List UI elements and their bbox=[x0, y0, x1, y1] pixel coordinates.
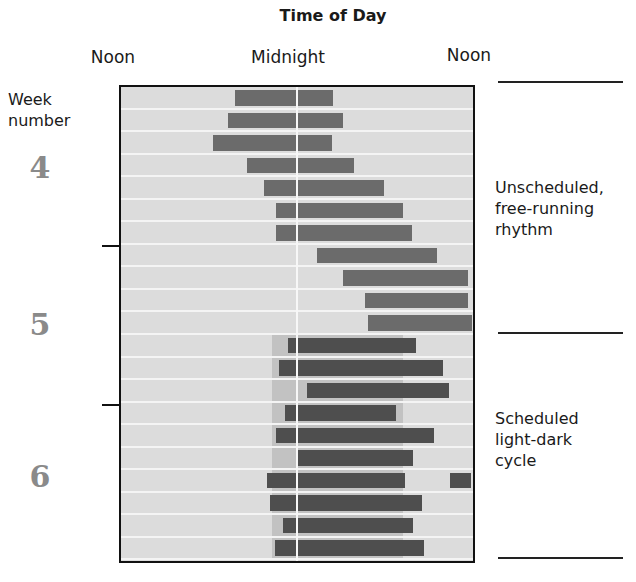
x-tick-noon-left: Noon bbox=[91, 47, 135, 67]
activity-bar bbox=[235, 90, 333, 106]
activity-bar bbox=[368, 315, 472, 331]
activity-bar bbox=[264, 180, 384, 196]
week-boundary-tick bbox=[102, 404, 119, 406]
actogram-plot-area bbox=[119, 85, 475, 563]
plot-rows bbox=[121, 87, 473, 561]
annotation-line: light-dark bbox=[495, 429, 579, 450]
annotation-line: Unscheduled, bbox=[495, 177, 604, 198]
activity-bar bbox=[288, 338, 417, 354]
activity-bar bbox=[247, 158, 354, 174]
x-tick-midnight: Midnight bbox=[251, 47, 325, 67]
section-divider bbox=[498, 557, 623, 559]
annotation-line: cycle bbox=[495, 450, 579, 471]
midnight-line bbox=[296, 87, 298, 561]
activity-bar bbox=[317, 248, 437, 264]
activity-bar bbox=[307, 383, 449, 399]
activity-bar bbox=[365, 293, 467, 309]
annotation-line: rhythm bbox=[495, 219, 604, 240]
section-divider bbox=[498, 81, 623, 83]
chart-title: Time of Day bbox=[0, 6, 636, 25]
activity-bar bbox=[276, 428, 434, 444]
y-axis-label-line1: Week bbox=[8, 89, 70, 110]
activity-bar bbox=[450, 473, 470, 489]
y-axis-label-line2: number bbox=[8, 110, 70, 131]
activity-bar bbox=[270, 495, 422, 511]
week-number-5: 5 bbox=[30, 307, 51, 342]
activity-bar bbox=[285, 405, 396, 421]
annotation-line: Scheduled bbox=[495, 408, 579, 429]
y-axis-label: Week number bbox=[8, 89, 70, 131]
activity-bar bbox=[283, 518, 413, 534]
week-boundary-tick bbox=[102, 245, 119, 247]
annotation-scheduled: Scheduled light-dark cycle bbox=[495, 408, 579, 471]
week-number-6: 6 bbox=[30, 459, 51, 494]
activity-bar bbox=[213, 135, 331, 151]
week-number-4: 4 bbox=[30, 150, 51, 185]
activity-bar bbox=[267, 473, 404, 489]
annotation-line: free-running bbox=[495, 198, 604, 219]
activity-bar bbox=[343, 270, 467, 286]
annotation-unscheduled: Unscheduled, free-running rhythm bbox=[495, 177, 604, 240]
section-divider bbox=[498, 332, 623, 334]
activity-bar bbox=[298, 450, 414, 466]
x-tick-noon-right: Noon bbox=[447, 45, 491, 65]
activity-bar bbox=[279, 360, 443, 376]
activity-bar bbox=[228, 113, 344, 129]
